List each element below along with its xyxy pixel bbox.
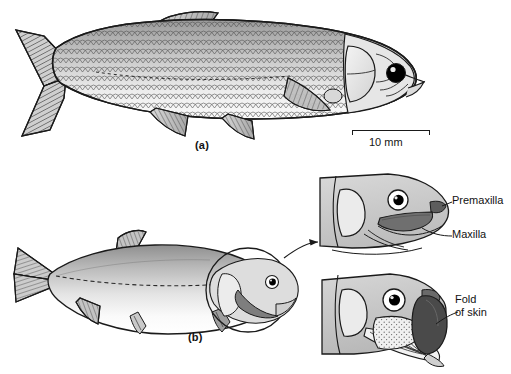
scale-bar-line <box>352 130 430 135</box>
panel-b-drawing <box>0 228 320 374</box>
fold-of-skin-shape <box>412 296 447 354</box>
scale-bar-label: 10 mm <box>369 136 403 148</box>
lower-head-drawing <box>318 266 511 372</box>
panel-b-smooth-fish: (b) <box>0 228 320 374</box>
detail-lower-head: Fold of skin <box>318 266 511 372</box>
detail-upper-head: Premaxilla Maxilla <box>318 172 511 264</box>
fold-of-skin-label: Fold of skin <box>455 293 487 319</box>
panel-a-label: (a) <box>195 139 209 151</box>
panel-b-label: (b) <box>188 331 203 343</box>
head-outline-upper <box>320 174 448 254</box>
premaxilla-label: Premaxilla <box>452 194 503 207</box>
fish-anatomy-figure: (a) 10 mm <box>0 0 511 374</box>
callout-arrow <box>284 239 318 258</box>
upper-head-drawing <box>318 172 511 264</box>
maxilla-label: Maxilla <box>452 228 486 241</box>
head-outline-lower <box>322 274 447 367</box>
